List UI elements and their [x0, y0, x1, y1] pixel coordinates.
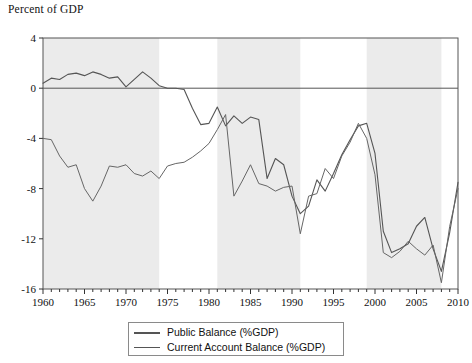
- svg-text:-12: -12: [21, 233, 36, 245]
- svg-text:1960: 1960: [32, 296, 55, 308]
- svg-text:1995: 1995: [323, 296, 346, 308]
- svg-text:2005: 2005: [406, 296, 429, 308]
- svg-text:2010: 2010: [447, 296, 470, 308]
- legend-label-public-balance: Public Balance (%GDP): [167, 327, 278, 338]
- svg-text:1980: 1980: [198, 296, 221, 308]
- svg-text:-4: -4: [27, 132, 37, 144]
- y-axis-tick-labels: 40-4-8-12-16: [21, 32, 36, 295]
- svg-text:1985: 1985: [240, 296, 263, 308]
- svg-text:0: 0: [31, 82, 37, 94]
- svg-text:-8: -8: [27, 183, 37, 195]
- svg-text:1970: 1970: [115, 296, 138, 308]
- legend-item-public-balance: Public Balance (%GDP): [134, 325, 338, 340]
- svg-text:-16: -16: [21, 283, 36, 295]
- svg-text:1975: 1975: [157, 296, 180, 308]
- y-axis-ticks: [39, 38, 43, 289]
- svg-text:1965: 1965: [74, 296, 97, 308]
- legend-line-icon-public-balance: [134, 332, 160, 334]
- legend-line-icon-current-account-balance: [134, 347, 160, 348]
- svg-text:1990: 1990: [281, 296, 304, 308]
- chart-container: Percent of GDP 40-4-8-12-16 196019651970…: [0, 0, 472, 363]
- legend-item-current-account-balance: Current Account Balance (%GDP): [134, 340, 338, 355]
- x-axis-tick-labels: 1960196519701975198019851990199520002005…: [32, 296, 470, 308]
- x-axis-ticks: [43, 289, 458, 294]
- legend-label-current-account-balance: Current Account Balance (%GDP): [167, 342, 325, 353]
- svg-text:2000: 2000: [364, 296, 387, 308]
- chart-svg: 40-4-8-12-16 196019651970197519801985199…: [0, 0, 472, 310]
- plot-area: 40-4-8-12-16 196019651970197519801985199…: [0, 0, 472, 310]
- chart-legend: Public Balance (%GDP) Current Account Ba…: [128, 322, 344, 356]
- svg-text:4: 4: [31, 32, 37, 44]
